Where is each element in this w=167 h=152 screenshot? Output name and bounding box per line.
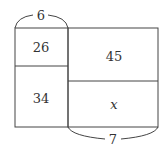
bottom-brace-label: 7 (109, 132, 117, 147)
cell-left-bottom: 34 (33, 91, 50, 106)
bottom-brace-right-arc (121, 127, 158, 139)
cell-left-top: 26 (33, 40, 50, 55)
cell-right-bottom: x (110, 97, 118, 112)
top-brace-left-arc (15, 15, 33, 28)
area-diagram: 6 26 34 45 x 7 (0, 0, 167, 152)
top-brace-right-arc (48, 15, 68, 28)
top-brace-label: 6 (37, 8, 45, 23)
bottom-brace-left-arc (68, 127, 105, 139)
cell-right-top: 45 (106, 49, 123, 64)
right-column-outline (68, 28, 158, 127)
